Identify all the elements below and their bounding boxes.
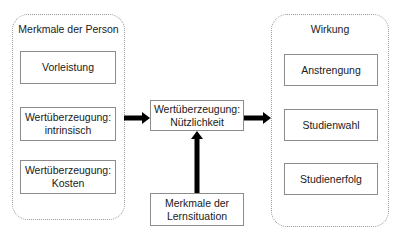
box-wertueberzeugung-nuetzlichkeit: Wertüberzeugung: Nützlichkeit	[150, 100, 244, 131]
group-title-wirkung: Wirkung	[272, 23, 388, 35]
box-studienerfolg: Studienerfolg	[284, 163, 378, 195]
box-vorleistung: Vorleistung	[20, 51, 116, 84]
box-studienwahl: Studienwahl	[284, 109, 378, 141]
box-wertueberzeugung-kosten: Wertüberzeugung: Kosten	[20, 160, 116, 194]
group-title-person: Merkmale der Person	[13, 23, 124, 35]
arrow-right-icon	[124, 111, 151, 125]
arrow-up-icon	[190, 131, 204, 193]
arrow-right-icon	[244, 111, 272, 125]
box-lernsituation: Merkmale der Lernsituation	[150, 193, 244, 226]
box-wertueberzeugung-intrinsisch: Wertüberzeugung: intrinsisch	[20, 107, 116, 141]
box-anstrengung: Anstrengung	[284, 54, 378, 86]
